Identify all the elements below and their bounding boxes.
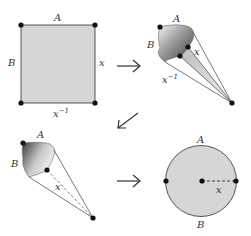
vertex-dot <box>157 24 162 29</box>
apex-dot <box>229 100 234 105</box>
vertex-dot <box>18 22 23 27</box>
label-b: B <box>196 219 204 230</box>
arrow-right-icon <box>117 60 140 72</box>
vertex-dot <box>44 167 49 172</box>
label-b: B <box>10 158 18 169</box>
vertex-dot <box>20 140 25 145</box>
label-x: x <box>194 46 200 57</box>
apex-dot <box>90 215 95 220</box>
label-a: A <box>53 12 61 23</box>
center-dot <box>199 178 204 183</box>
vertex-dot <box>18 100 23 105</box>
diagram-canvas: A B x x−1 A B x x−1 A <box>0 0 251 236</box>
square-shape <box>21 25 95 103</box>
label-x-inverse: x−1 <box>162 73 178 85</box>
folded-cone-panel: A B x <box>10 129 96 221</box>
vertex-dot <box>177 53 182 58</box>
vertex-dot <box>92 100 97 105</box>
label-x: x <box>216 184 222 195</box>
vertex-dot <box>185 44 190 49</box>
vertex-dot <box>92 22 97 27</box>
label-b: B <box>7 57 15 68</box>
arrow-right-icon <box>117 175 140 187</box>
label-a: A <box>172 13 180 24</box>
vertex-dot <box>163 178 168 183</box>
label-x-inverse: x−1 <box>53 107 69 119</box>
vertex-dot <box>233 178 238 183</box>
label-x: x <box>55 181 61 192</box>
label-a: A <box>196 134 204 145</box>
label-x: x <box>99 57 105 68</box>
label-a: A <box>36 129 44 140</box>
disk-panel: A B x <box>163 134 238 230</box>
arrow-down-left-icon <box>118 113 138 128</box>
label-b: B <box>146 39 154 50</box>
cone-panel: A B x x−1 <box>146 13 235 106</box>
square-panel: A B x x−1 <box>7 12 105 119</box>
